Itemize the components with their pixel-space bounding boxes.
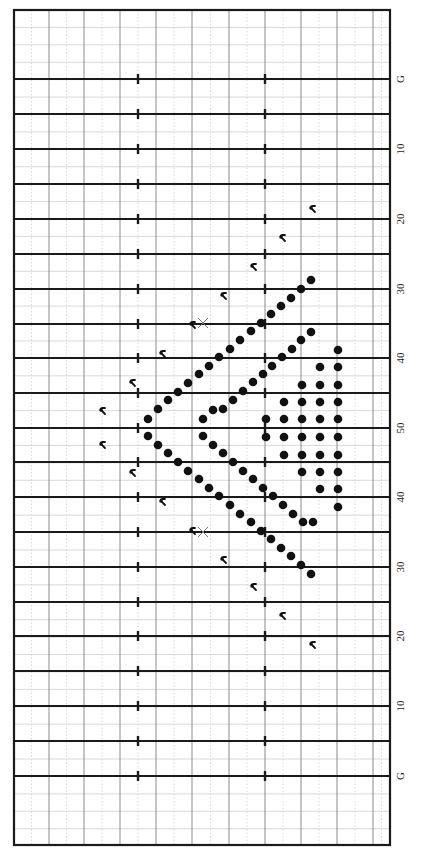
performer-dot [334, 381, 343, 390]
direction-marker-head [309, 206, 313, 210]
yard-label: 10 [394, 143, 406, 155]
direction-marker-head [99, 442, 103, 446]
performer-dot [229, 458, 238, 467]
performer-dot [316, 485, 325, 494]
performer-dot [184, 379, 193, 388]
performer-dot [257, 319, 266, 328]
yard-label: 40 [394, 352, 406, 364]
performer-dot [226, 345, 235, 354]
performer-dot [287, 552, 296, 561]
performer-dot [249, 475, 258, 484]
performer-dot [236, 336, 245, 345]
performer-dot [297, 336, 306, 345]
performer-dot [174, 458, 183, 467]
performer-dot [316, 381, 325, 390]
performer-dot [288, 345, 297, 354]
performer-dot [316, 398, 325, 407]
direction-marker-head [129, 470, 133, 474]
performer-dot [298, 468, 307, 477]
yard-lines [14, 79, 390, 776]
performer-dot [279, 501, 288, 510]
performer-dot [236, 510, 245, 519]
performer-dot [307, 276, 316, 285]
direction-marker-head [129, 380, 133, 384]
performer-dot [277, 302, 286, 311]
performer-dot [334, 503, 343, 512]
direction-marker-head [250, 264, 254, 268]
direction-marker-head [99, 408, 103, 412]
yard-label: 50 [394, 422, 406, 434]
performer-dot [334, 485, 343, 494]
direction-marker-head [220, 293, 224, 297]
performer-dot [298, 451, 307, 460]
performer-dot [229, 396, 238, 405]
performer-dot [334, 468, 343, 477]
performer-dot [259, 370, 268, 379]
performer-dot [334, 415, 343, 424]
performer-dot [215, 353, 224, 362]
direction-marker-head [220, 557, 224, 561]
performer-dot [280, 415, 289, 424]
performer-dot [316, 468, 325, 477]
performer-dot [226, 501, 235, 510]
performer-dot [307, 570, 316, 579]
performer-dot [316, 415, 325, 424]
performer-dot [199, 432, 208, 441]
performer-dot [219, 405, 228, 414]
performer-dot [164, 396, 173, 405]
performer-dot [249, 378, 258, 387]
direction-marker-head [250, 584, 254, 588]
performer-dot [316, 451, 325, 460]
direction-marker-head [279, 235, 283, 239]
performer-dot [298, 433, 307, 442]
performer-dot [259, 484, 268, 493]
performer-dot [199, 415, 208, 424]
performer-dot [334, 346, 343, 355]
performer-dot [239, 387, 248, 396]
performer-dot [205, 362, 214, 371]
performer-dot [195, 370, 204, 379]
performer-dot [277, 544, 286, 553]
yard-label: 20 [394, 213, 406, 225]
direction-marker-head [159, 499, 163, 503]
performer-dot [239, 467, 248, 476]
performer-dot [334, 451, 343, 460]
drill-chart: G102030405040302010G [0, 0, 422, 855]
performer-dot [215, 492, 224, 501]
performer-dot [184, 467, 193, 476]
performer-dot [299, 518, 308, 527]
performer-dot [174, 388, 183, 397]
performer-dot [268, 362, 277, 371]
performer-dot [278, 353, 287, 362]
performer-dot [298, 398, 307, 407]
performer-dot [334, 363, 343, 372]
performer-dot [257, 527, 266, 536]
yard-label: G [394, 75, 406, 83]
direction-marker-head [159, 351, 163, 355]
performer-dot [297, 561, 306, 570]
performer-dot [316, 433, 325, 442]
performer-dot [280, 433, 289, 442]
performer-dot [144, 415, 153, 424]
performer-dot [334, 398, 343, 407]
direction-marker-head [309, 642, 313, 646]
performer-dot [219, 449, 228, 458]
performer-dot [164, 449, 173, 458]
performer-dot [298, 415, 307, 424]
performer-dot [269, 492, 278, 501]
performer-dot [144, 432, 153, 441]
performer-dot [247, 327, 256, 336]
performer-dot [298, 381, 307, 390]
performer-dot [289, 510, 298, 519]
performer-dot [267, 535, 276, 544]
performer-dot [247, 518, 256, 527]
performer-dot [262, 433, 271, 442]
performer-dot [267, 310, 276, 319]
direction-marker-head [279, 613, 283, 617]
performer-dot [316, 363, 325, 372]
yard-label: 30 [394, 561, 406, 573]
yard-label: 30 [394, 283, 406, 295]
direction-marker-head [189, 322, 193, 326]
performer-dot [262, 415, 271, 424]
performer-dot [287, 294, 296, 303]
